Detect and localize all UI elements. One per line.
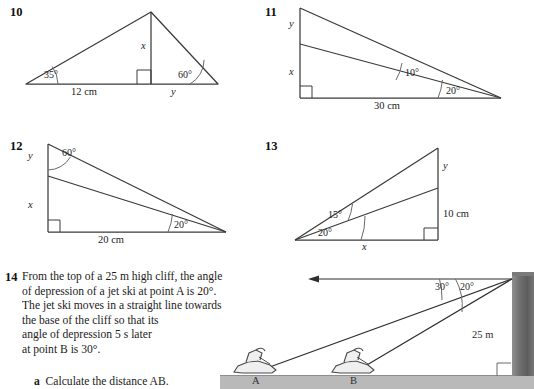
side-label-x: x — [28, 199, 33, 210]
figure-10: 35° 60° x 12 cm y — [18, 6, 233, 101]
figure-14-cliff-scene: 30° 20° 25 m A B — [220, 272, 534, 389]
question-14-body: From the top of a 25 m high cliff, the a… — [22, 270, 227, 358]
side-label-y: y — [289, 18, 294, 29]
side-label-x: x — [289, 66, 294, 77]
side-label-y: y — [28, 150, 33, 161]
angle-label-20: 20° — [446, 85, 460, 96]
line-of-sight-b — [355, 279, 512, 372]
angle-label-20: 20° — [174, 219, 188, 230]
jet-ski-b-icon — [332, 348, 374, 373]
figure-11: y x 10° 20° 30 cm — [286, 6, 526, 116]
question-14-line: at point B is 30°. — [22, 343, 227, 358]
textbook-page: 10 35° 60° x 12 cm y 11 — [0, 0, 534, 389]
figure-12: y x 60° 20° 20 cm — [26, 140, 256, 250]
angle-arc-60 — [190, 60, 204, 84]
question-14-line: angle of depression 5 s later — [22, 328, 227, 343]
base-label-20cm: 20 cm — [98, 234, 124, 245]
arrow-head-icon — [308, 276, 319, 283]
question-number-14: 14 — [5, 270, 18, 285]
part-text: Calculate the distance AB. — [46, 375, 169, 388]
point-label-a: A — [252, 375, 260, 386]
figure-13: y 10 cm 15° 20° x — [286, 140, 516, 250]
inner-hypotenuse — [48, 176, 226, 232]
angle-arc-20 — [361, 216, 365, 240]
right-angle-marker — [48, 220, 60, 232]
angle-label-60: 60° — [178, 69, 192, 80]
figure-10-svg — [18, 6, 233, 101]
angle-label-20: 20° — [318, 227, 332, 238]
question-14-line: of depression of a jet ski at point A is… — [22, 285, 227, 300]
angle-label-35: 35° — [44, 69, 58, 80]
question-14-line: The jet ski moves in a straight line tow… — [22, 299, 227, 314]
angle-label-60: 60° — [62, 147, 76, 158]
right-angle-marker — [300, 86, 312, 98]
angle-arc-20 — [168, 214, 173, 232]
right-angle-marker — [497, 363, 511, 376]
question-number-12: 12 — [10, 139, 23, 154]
segment-label-y: y — [171, 86, 176, 97]
question-14-line: the base of the cliff so that its — [22, 314, 227, 329]
point-label-b: B — [350, 375, 357, 386]
base-label-12cm: 12 cm — [71, 86, 97, 97]
angle-label-15: 15° — [328, 209, 342, 220]
figure-12-svg — [26, 140, 256, 250]
side-label-y: y — [443, 160, 448, 171]
question-number-11: 11 — [265, 5, 277, 20]
angle-label-30: 30° — [435, 281, 449, 292]
right-angle-marker — [424, 228, 438, 240]
side-label-x: x — [141, 40, 146, 51]
jet-ski-a-icon — [234, 348, 276, 373]
question-number-13: 13 — [265, 139, 278, 154]
angle-arc-60 — [48, 157, 71, 170]
question-14-line: From the top of a 25 m high cliff, the a… — [22, 270, 227, 285]
part-letter: a — [34, 375, 40, 388]
side-label-10cm: 10 cm — [443, 208, 469, 219]
cliff-height-label: 25 m — [472, 329, 493, 340]
base-label-x: x — [362, 241, 367, 252]
figure-11-svg — [286, 6, 526, 116]
angle-arc-20 — [438, 80, 443, 98]
right-angle-marker — [137, 70, 151, 84]
inner-hypotenuse — [295, 188, 438, 240]
question-14-part-a: a Calculate the distance AB. — [34, 375, 169, 388]
base-label-30cm: 30 cm — [374, 100, 400, 111]
angle-arc-15 — [348, 204, 353, 221]
outer-hypotenuse — [295, 148, 438, 240]
angle-label-20: 20° — [460, 281, 474, 292]
line-of-sight-a — [256, 279, 512, 372]
outer-hypotenuse — [300, 8, 501, 98]
angle-label-10: 10° — [405, 67, 419, 78]
